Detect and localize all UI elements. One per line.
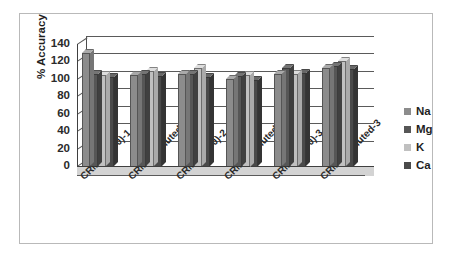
bar-face: [226, 79, 234, 166]
legend-item-ca[interactable]: Ca: [404, 156, 454, 174]
legend-item-na[interactable]: Na: [404, 102, 454, 120]
bar-side: [250, 71, 254, 167]
bar-side: [90, 49, 94, 166]
bar-face: [130, 75, 138, 166]
bar-side: [258, 76, 262, 166]
chart-frame: % Accuracy 020406080100120140 CRM(1+100)…: [19, 13, 433, 244]
chart-legend: NaMgKCa: [404, 102, 454, 174]
bar-side: [114, 73, 118, 166]
bar-group: [130, 44, 162, 166]
bar-face: [82, 53, 90, 166]
legend-label: Na: [416, 106, 431, 117]
bar-side: [202, 64, 206, 166]
legend-swatch-icon: [404, 126, 411, 133]
gridline: [86, 36, 374, 37]
bar-side: [210, 73, 214, 166]
bar: [178, 74, 186, 166]
legend-swatch-icon: [404, 162, 411, 169]
bar-face: [178, 74, 186, 166]
y-axis-line: [77, 44, 78, 166]
bar-side: [354, 65, 358, 166]
bar: [226, 79, 234, 166]
bar-side: [162, 72, 166, 166]
bar-side: [290, 64, 294, 166]
y-tick-label: 120: [40, 55, 70, 65]
bar-side: [338, 62, 342, 166]
bar-side: [98, 70, 102, 166]
legend-label: Ca: [416, 160, 431, 171]
bar-side: [186, 70, 190, 166]
bar-side: [154, 67, 158, 166]
bar: [130, 75, 138, 166]
y-tick-label: 40: [40, 125, 70, 135]
bar-side: [138, 71, 142, 166]
chart-figure: % Accuracy 020406080100120140 CRM(1+100)…: [0, 0, 455, 259]
bar-group: [274, 44, 306, 166]
bar-side: [298, 70, 302, 166]
y-tick-label: 80: [40, 90, 70, 100]
legend-label: Mg: [416, 124, 433, 135]
bar: [274, 74, 282, 166]
y-tick-label: 140: [40, 38, 70, 48]
bar-side: [282, 70, 286, 166]
bar-face: [322, 68, 330, 166]
bar-side: [242, 72, 246, 166]
y-tick-label: 100: [40, 73, 70, 83]
y-tick-label: 60: [40, 108, 70, 118]
bar-side: [346, 57, 350, 166]
legend-item-k[interactable]: K: [404, 138, 454, 156]
plot-area: [77, 44, 374, 166]
bar-face: [274, 74, 282, 166]
bar: [82, 53, 90, 166]
y-tick-label: 0: [40, 160, 70, 170]
bar-group: [178, 44, 210, 166]
y-tick-label: 20: [40, 143, 70, 153]
bar-group: [226, 44, 258, 166]
bar-group: [82, 44, 114, 166]
bar-side: [146, 70, 150, 166]
legend-item-mg[interactable]: Mg: [404, 120, 454, 138]
legend-swatch-icon: [404, 144, 411, 151]
bar: [322, 68, 330, 166]
bar-group: [322, 44, 354, 166]
bar-side: [306, 69, 310, 166]
bar-side: [330, 64, 334, 166]
bar-side: [234, 75, 238, 166]
bar-side: [194, 70, 198, 166]
legend-swatch-icon: [404, 108, 411, 115]
bar-side: [106, 71, 110, 166]
legend-label: K: [416, 142, 424, 153]
